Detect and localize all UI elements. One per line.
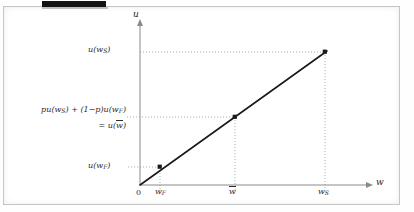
y-tick-label-u-ws: u(wS) — [88, 46, 110, 54]
x-tick-label-wf: wF — [155, 188, 166, 196]
point-wf — [158, 165, 162, 169]
x-tick-label-origin: 0 — [136, 189, 141, 197]
y-axis — [137, 19, 143, 185]
x-tick-wf-text: wF — [155, 187, 166, 196]
x-tick-label-ws: wS — [318, 188, 329, 196]
plot-area: u w u(wS) pu(wS) + (1−p)u(wF) = u(w) u(w… — [0, 0, 414, 212]
x-tick-ws-text: wS — [318, 187, 329, 196]
horizontal-guides — [127, 52, 325, 167]
point-ws — [323, 50, 327, 54]
x-tick-wbar-text: w — [229, 188, 236, 196]
y-tick-u-ws-text: u(wS) — [88, 45, 110, 54]
x-axis-arrow — [366, 182, 373, 188]
expected-utility-expression: pu(wS) + (1−p)u(wF) — [41, 105, 126, 114]
y-tick-u-wf-text: u(wF) — [88, 161, 110, 170]
x-axis-label: w — [376, 178, 384, 187]
certainty-equivalent-expression: = u(w) — [98, 121, 126, 130]
y-axis-label: u — [133, 10, 139, 19]
y-tick-label-expected-utility-line2: = u(w) — [20, 122, 126, 130]
x-tick-label-wbar: w — [229, 188, 236, 196]
y-axis-arrow — [137, 19, 143, 26]
figure-root: u w u(wS) pu(wS) + (1−p)u(wF) = u(w) u(w… — [0, 0, 414, 212]
vertical-guides — [160, 52, 325, 190]
y-tick-label-expected-utility-line1: pu(wS) + (1−p)u(wF) — [20, 106, 126, 114]
point-wbar — [233, 115, 237, 119]
data-points — [158, 50, 327, 169]
x-axis — [140, 182, 373, 188]
y-tick-label-u-wf: u(wF) — [88, 162, 110, 170]
